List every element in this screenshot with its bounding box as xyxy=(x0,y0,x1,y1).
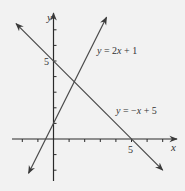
line-y-neg-x-plus-5 xyxy=(16,24,163,171)
y-axis-label: y xyxy=(46,11,52,23)
x-axis-label: x xyxy=(170,141,176,153)
line1-label: y = 2x + 1 xyxy=(96,45,137,56)
chart: y x 5 5 y = 2x + 1 y = −x + 5 xyxy=(0,0,185,191)
line-y-2x-plus-1 xyxy=(29,17,107,173)
line2-label: y = −x + 5 xyxy=(115,105,157,116)
x-tick-label-5: 5 xyxy=(128,144,133,155)
y-tick-label-5: 5 xyxy=(44,56,49,67)
plot-area: y x 5 5 y = 2x + 1 y = −x + 5 xyxy=(0,0,185,191)
